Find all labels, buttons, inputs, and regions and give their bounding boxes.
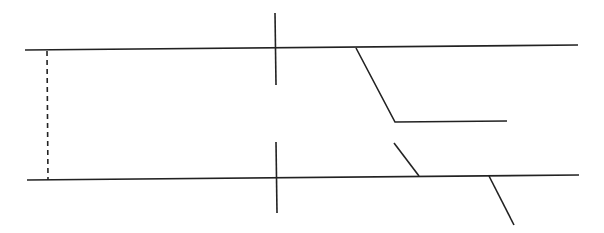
upper-branch [356, 48, 507, 122]
bottom-rail [27, 175, 579, 180]
lower-vertical-tick [276, 142, 277, 213]
lower-diagonal [489, 176, 514, 225]
diagram-lines [25, 13, 579, 225]
diagram-canvas [0, 0, 604, 233]
short-diagonal [394, 143, 419, 176]
left-dashed-link [47, 51, 48, 180]
line-diagram [0, 0, 604, 233]
upper-vertical-tick [275, 13, 276, 85]
top-rail [25, 45, 578, 50]
